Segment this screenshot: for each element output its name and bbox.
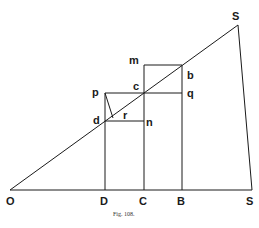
- label-p: p: [92, 86, 99, 98]
- line-S-base: [238, 25, 252, 190]
- label-O: O: [6, 195, 15, 207]
- label-S-base: S: [246, 195, 253, 207]
- label-D: D: [100, 195, 108, 207]
- line-pr: [105, 93, 113, 118]
- label-d: d: [93, 114, 100, 126]
- label-S-top: S: [232, 10, 239, 22]
- label-c: c: [133, 80, 139, 92]
- label-b: b: [187, 69, 194, 81]
- label-C: C: [139, 195, 147, 207]
- figure-caption: Fig. 108.: [113, 211, 135, 217]
- label-n: n: [146, 116, 153, 128]
- label-q: q: [187, 87, 194, 99]
- geometric-figure: S m b p c q d r n O D C B S Fig. 108.: [0, 0, 259, 228]
- label-B: B: [177, 195, 185, 207]
- label-r: r: [123, 109, 128, 121]
- line-OS: [10, 25, 238, 190]
- label-m: m: [129, 54, 139, 66]
